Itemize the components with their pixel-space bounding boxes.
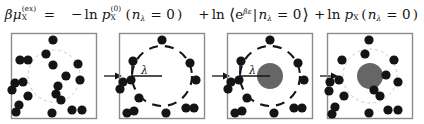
ln-1: ln <box>84 6 97 22</box>
solvent-particle <box>265 35 274 44</box>
solvent-particle <box>297 103 306 112</box>
solvent-particle <box>325 77 334 86</box>
solvent-particle <box>185 58 194 67</box>
p0-x: pX(0) <box>102 6 111 22</box>
solvent-particle <box>223 84 232 93</box>
paren-open-1: ( <box>124 6 131 22</box>
plus-sign-1: + <box>197 6 210 22</box>
solvent-particle <box>7 85 16 94</box>
solvent-particle <box>393 77 402 86</box>
solvent-particle <box>115 84 124 93</box>
p-x: pX <box>345 6 354 22</box>
solvent-particle <box>56 95 65 104</box>
solvent-particle <box>48 60 57 69</box>
panel-bulk-solvent <box>6 28 102 124</box>
panels-row: λ λ <box>0 28 424 124</box>
solvent-particle <box>47 108 56 117</box>
paren-close-1: ) <box>176 6 183 22</box>
panel-solute-inserted: λ <box>222 28 318 124</box>
p-subscript-x-2: X <box>353 13 358 22</box>
solvent-particle <box>15 55 24 64</box>
eq-zero-3: = 0 <box>385 6 412 22</box>
solute-inserted-graphic: λ <box>222 28 318 124</box>
p-symbol-1: p <box>102 6 111 22</box>
bulk-solvent-graphic <box>6 28 102 124</box>
solvent-particle <box>234 75 243 84</box>
free-energy-equation: βμX(ex)=−lnpX(0)(nλ= 0)+ln⟨eβε|nλ= 0⟩+ln… <box>5 5 419 24</box>
solvent-particle <box>23 55 32 64</box>
solvent-particle <box>134 93 143 102</box>
beta-symbol: β <box>5 6 13 22</box>
solvent-particle <box>334 75 343 84</box>
solvent-particle <box>161 108 170 117</box>
solvent-particle <box>67 105 76 114</box>
paren-close-2: ) <box>412 6 419 22</box>
n-subscript-lambda-3: λ <box>376 14 381 23</box>
solvent-particle <box>389 55 398 64</box>
solvent-particle <box>73 59 82 68</box>
solvent-particle <box>126 75 135 84</box>
solvent-particle <box>189 103 198 112</box>
mu-subscript-x: X <box>22 13 27 22</box>
solvent-particle <box>181 103 190 112</box>
solute-relaxed-graphic <box>322 28 418 124</box>
solvent-particle <box>299 75 308 84</box>
solvent-particle <box>324 86 333 95</box>
solvent-particle <box>242 93 251 102</box>
solvent-particle <box>375 91 384 100</box>
mu-symbol: μ <box>13 6 22 22</box>
n-symbol-1: n <box>132 6 141 22</box>
solvent-particle <box>41 49 50 58</box>
equation-row: βμX(ex)=−lnpX(0)(nλ= 0)+ln⟨eβε|nλ= 0⟩+ln… <box>0 0 424 28</box>
solvent-particle <box>61 71 70 80</box>
solvent-particle <box>157 35 166 44</box>
solvent-particle <box>364 35 373 44</box>
paren-open-2: ( <box>360 6 367 22</box>
eq-zero-2: = 0 <box>276 6 303 22</box>
solvent-particle <box>11 107 20 116</box>
eq-zero-1: = 0 <box>149 6 176 22</box>
n-subscript-lambda-1: λ <box>141 14 146 23</box>
cavity-created-graphic: λ <box>114 28 210 124</box>
solvent-particle <box>23 91 32 100</box>
solvent-particle <box>48 35 57 44</box>
solvent-particle <box>327 109 336 118</box>
ln-2: ln <box>212 6 225 22</box>
solvent-particle <box>269 108 278 117</box>
panel-solute-relaxed <box>322 28 418 124</box>
n-subscript-lambda-2: λ <box>267 14 272 23</box>
solvent-particle <box>293 58 302 67</box>
solvent-particle <box>236 56 245 65</box>
angle-bracket-close: ⟩ <box>303 5 309 24</box>
solute-sphere <box>357 63 383 89</box>
beta-epsilon-exponent: βε <box>243 7 251 16</box>
solvent-particle <box>289 103 298 112</box>
solvent-particle <box>128 56 137 65</box>
ln-3: ln <box>327 6 340 22</box>
solvent-particle <box>18 77 27 86</box>
solvent-particle <box>383 105 392 114</box>
solvent-particle <box>230 108 239 117</box>
lambda-label: λ <box>140 64 148 77</box>
solvent-particle <box>75 75 84 84</box>
solvent-particle <box>122 108 131 117</box>
solvent-particle <box>393 105 402 114</box>
minus-sign: − <box>70 6 83 22</box>
beta-mu-ex: βμX(ex) <box>5 6 22 22</box>
p-symbol-2: p <box>345 6 354 22</box>
solvent-particle <box>77 105 86 114</box>
solvent-particle <box>191 75 200 84</box>
solvent-particle <box>339 91 348 100</box>
panel-cavity-created: λ <box>114 28 210 124</box>
solvent-particle <box>364 108 373 117</box>
p-superscript-zero: (0) <box>110 4 121 13</box>
solvent-particle <box>53 81 62 90</box>
plus-sign-2: + <box>313 6 326 22</box>
solvent-particle <box>360 49 369 58</box>
solvent-particle <box>337 55 346 64</box>
equals-sign: = <box>43 6 56 22</box>
mu-superscript-ex: (ex) <box>22 4 37 13</box>
lambda-label: λ <box>248 64 256 77</box>
p-subscript-x-1: X <box>110 13 115 22</box>
n-symbol-2: n <box>258 6 267 22</box>
